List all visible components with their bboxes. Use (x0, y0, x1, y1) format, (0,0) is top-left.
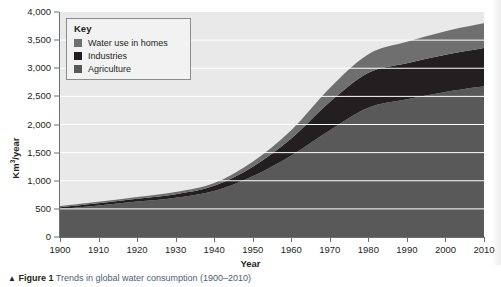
legend-title: Key (74, 23, 184, 34)
caption-figure-number: Figure 1 (18, 273, 53, 283)
y-tick-label: 1,500 (27, 148, 51, 158)
x-tick-label: 1980 (358, 244, 379, 255)
y-tick-mark (54, 208, 59, 209)
y-tick-mark (54, 12, 59, 13)
x-axis-line (59, 237, 485, 238)
legend-swatch-icon (74, 65, 82, 73)
x-tick-label: 2000 (435, 244, 456, 255)
legend-label: Water use in homes (88, 38, 168, 48)
x-tick-mark (368, 237, 369, 242)
y-tick-label: 1,000 (27, 176, 51, 186)
y-tick-mark (54, 237, 59, 238)
x-tick-label: 2010 (473, 244, 494, 255)
y-tick-label: 500 (35, 204, 51, 214)
figure-caption: ▲ Figure 1 Trends in global water consum… (8, 272, 251, 285)
x-tick-label: 1910 (88, 244, 109, 255)
x-tick-mark (253, 237, 254, 242)
y-tick-label: 3,500 (27, 35, 51, 45)
y-axis-title: Km3/year (9, 123, 21, 193)
x-tick-label: 1900 (49, 244, 70, 255)
x-tick-mark (60, 237, 61, 242)
legend: Key Water use in homes Industries Agricu… (66, 18, 191, 80)
y-tick-mark (54, 124, 59, 125)
y-tick-label: 4,000 (27, 7, 51, 17)
x-tick-mark (330, 237, 331, 242)
figure-container: 05001,0001,5002,0002,5003,0003,5004,000 … (0, 0, 501, 287)
x-tick-label: 1930 (165, 244, 186, 255)
x-tick-label: 1990 (396, 244, 417, 255)
y-axis-title-main: Km (10, 163, 21, 178)
legend-swatch-icon (74, 52, 82, 60)
x-tick-label: 1950 (242, 244, 263, 255)
legend-item-industries: Industries (74, 50, 184, 61)
x-tick-mark (214, 237, 215, 242)
legend-label: Agriculture (88, 64, 131, 74)
y-tick-mark (54, 180, 59, 181)
y-tick-mark (54, 96, 59, 97)
legend-label: Industries (88, 51, 127, 61)
x-tick-mark (137, 237, 138, 242)
x-tick-label: 1940 (204, 244, 225, 255)
caption-triangle-icon: ▲ (8, 274, 16, 283)
y-tick-label: 3,000 (27, 63, 51, 73)
y-axis-title-exponent: 3 (9, 160, 16, 164)
x-tick-label: 1920 (127, 244, 148, 255)
page-edge-shading (492, 0, 501, 265)
caption-text: Trends in global water consumption (1900… (56, 273, 251, 283)
y-tick-label: 0 (46, 232, 51, 242)
x-tick-mark (407, 237, 408, 242)
x-tick-label: 1970 (319, 244, 340, 255)
x-tick-mark (291, 237, 292, 242)
y-tick-label: 2,500 (27, 91, 51, 101)
x-tick-label: 1960 (281, 244, 302, 255)
x-tick-mark (176, 237, 177, 242)
legend-item-agriculture: Agriculture (74, 63, 184, 74)
y-tick-mark (54, 40, 59, 41)
x-tick-mark (484, 237, 485, 242)
y-tick-mark (54, 68, 59, 69)
y-axis-title-rest: /year (10, 138, 21, 160)
y-tick-label: 2,000 (27, 120, 51, 130)
x-axis-title: Year (0, 258, 501, 269)
legend-item-water-use-in-homes: Water use in homes (74, 37, 184, 48)
x-tick-mark (99, 237, 100, 242)
x-tick-mark (445, 237, 446, 242)
legend-swatch-icon (74, 39, 82, 47)
y-tick-mark (54, 152, 59, 153)
